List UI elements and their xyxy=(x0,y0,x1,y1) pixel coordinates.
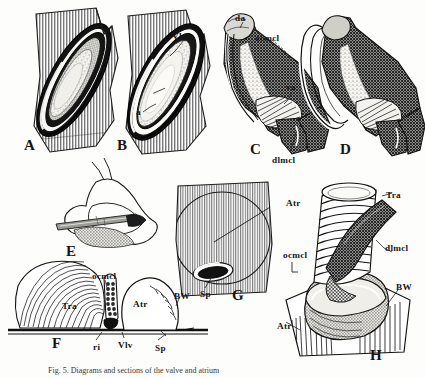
panel-letter-e: E xyxy=(66,244,76,259)
annotation-va-c: va xyxy=(286,83,296,92)
annotation-bw-f: BW xyxy=(174,292,190,301)
figure-plate: A B C D E F G H Vlv a da ocmcl va dlmcl … xyxy=(0,0,425,378)
annotation-ocmcl-c: ocmcl xyxy=(255,34,279,43)
panel-letter-g: G xyxy=(232,288,244,303)
annotation-ocmcl-h: ocmcl xyxy=(283,251,307,260)
panel-letter-h: H xyxy=(370,348,382,363)
panel-letter-b: B xyxy=(117,138,127,153)
annotation-ocmcl-f: ocmcl xyxy=(92,272,116,281)
annotation-vlv-f: Vlv xyxy=(118,341,133,350)
annotation-atr-h: Atr xyxy=(277,322,292,331)
annotation-atr-g: Atr xyxy=(286,199,301,208)
annotation-bw-h: BW xyxy=(396,283,412,292)
annotation-a-b: a xyxy=(136,108,141,117)
annotation-atr-f: Atr xyxy=(133,300,148,309)
annotation-sp-g: Sp xyxy=(200,290,211,299)
annotation-sp-f: Sp xyxy=(155,344,166,353)
panel-letter-f: F xyxy=(52,336,61,351)
panel-letter-a: A xyxy=(24,138,35,153)
panel-letter-c: C xyxy=(250,142,261,157)
panel-letter-d: D xyxy=(340,142,351,157)
annotation-dlmcl-c: dlmcl xyxy=(272,156,295,165)
annotation-tra-f: Tra xyxy=(62,302,77,311)
annotation-ri-f: ri xyxy=(93,343,100,352)
figure-caption: Fig. 5. Diagrams and sections of the val… xyxy=(48,366,219,378)
figure-artwork xyxy=(0,0,425,378)
annotation-da-c: da xyxy=(235,14,245,23)
annotation-dlmcl-h: dlmcl xyxy=(385,244,408,253)
annotation-tra-h: Tra xyxy=(386,191,401,200)
annotation-vlv-b: Vlv xyxy=(172,32,187,41)
